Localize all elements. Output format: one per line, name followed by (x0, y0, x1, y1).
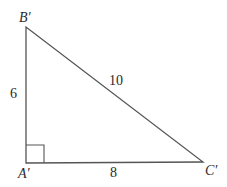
vertex-label-c: C′ (205, 164, 217, 178)
side-label-ab: 6 (10, 87, 17, 101)
triangle-figure (0, 0, 227, 187)
side-label-ac: 8 (110, 166, 117, 180)
right-angle-marker (26, 145, 44, 163)
vertex-label-a: A′ (18, 167, 30, 181)
triangle (26, 27, 203, 163)
vertex-label-b: B′ (19, 11, 31, 25)
side-label-bc: 10 (109, 74, 123, 88)
